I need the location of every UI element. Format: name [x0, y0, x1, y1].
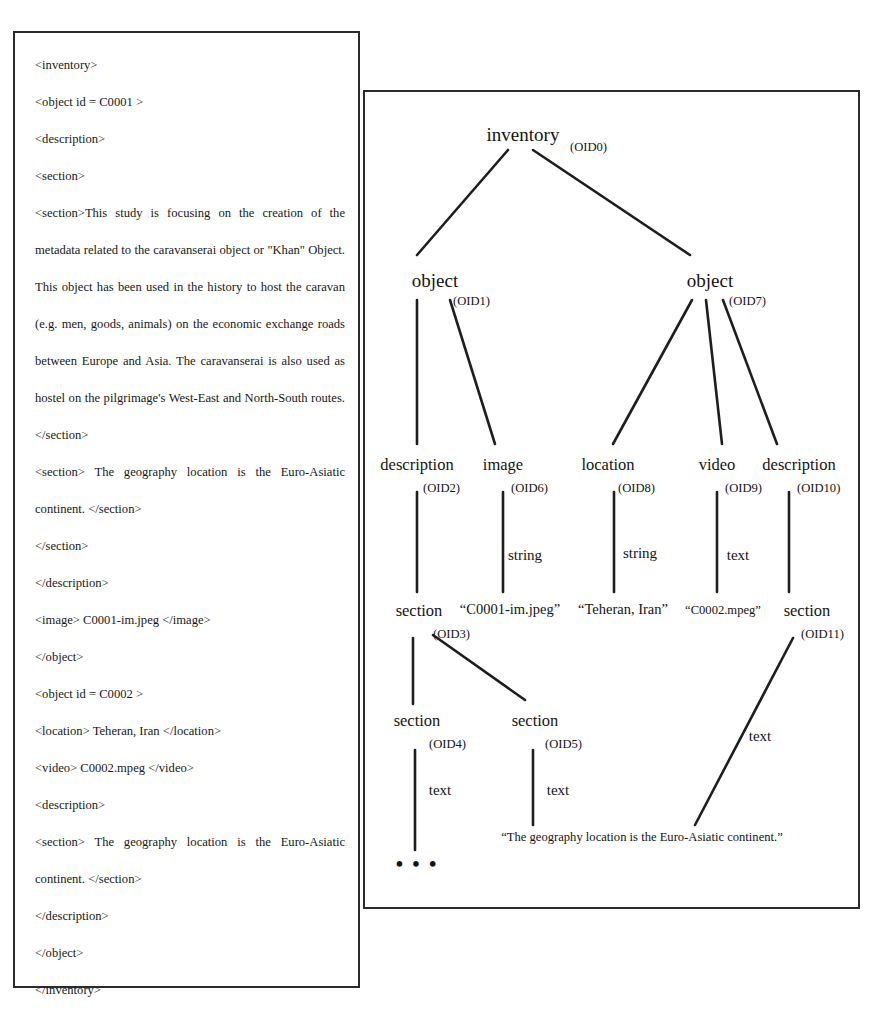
- tree-node-object-2: object: [687, 270, 733, 292]
- tree-ellipsis: • • •: [396, 854, 439, 875]
- xml-document-panel: <inventory><object id = C0001 ><descript…: [13, 31, 360, 988]
- tree-node-description-1: description: [380, 455, 453, 475]
- tree-edge-label-text-section11: text: [749, 728, 772, 745]
- tree-oid-inventory: (OID0): [570, 140, 607, 155]
- xml-line: <section>This study is focusing on the c…: [35, 195, 345, 454]
- tree-node-section-oid4: section: [394, 711, 441, 731]
- tree-edge-label-text-section4: text: [429, 782, 452, 799]
- tree-oid-section-oid11: (OID11): [801, 627, 844, 642]
- edge-object2-location: [613, 300, 692, 444]
- xml-line: <section> The geography location is the …: [35, 824, 345, 898]
- xml-line: </inventory>: [35, 972, 345, 1009]
- xml-line-list: <inventory><object id = C0001 ><descript…: [35, 47, 345, 1009]
- tree-node-section-oid5: section: [512, 711, 559, 731]
- tree-node-image: image: [483, 455, 523, 475]
- xml-line: <inventory>: [35, 47, 345, 84]
- xml-line: <image> C0001-im.jpeg </image>: [35, 602, 345, 639]
- edge-inventory-object2: [533, 150, 690, 255]
- tree-node-object-1: object: [412, 270, 458, 292]
- tree-oid-section-oid3: (OID3): [433, 627, 470, 642]
- xml-line: <video> C0002.mpeg </video>: [35, 750, 345, 787]
- edge-object1-image: [450, 300, 495, 444]
- xml-line: <object id = C0001 >: [35, 84, 345, 121]
- tree-node-description-2: description: [762, 455, 835, 475]
- tree-node-location: location: [581, 455, 634, 475]
- tree-edge-label-string-image: string: [508, 547, 542, 564]
- tree-oid-section-oid4: (OID4): [429, 737, 466, 752]
- edge-section11-text: [695, 638, 793, 825]
- xml-line: <description>: [35, 121, 345, 158]
- tree-oid-section-oid5: (OID5): [545, 737, 582, 752]
- tree-node-section-oid3: section: [396, 601, 443, 621]
- edge-object2-description: [723, 300, 777, 444]
- tree-oid-description-2: (OID10): [797, 481, 840, 496]
- xml-line: <description>: [35, 787, 345, 824]
- tree-node-video: video: [699, 455, 736, 475]
- xml-line: <object id = C0002 >: [35, 676, 345, 713]
- tree-leaf-location-value: “Teheran, Iran”: [578, 601, 668, 618]
- xml-line: </description>: [35, 565, 345, 602]
- xml-line: <section>: [35, 158, 345, 195]
- tree-oid-video: (OID9): [725, 481, 762, 496]
- tree-leaf-image-value: “C0001-im.jpeg”: [460, 601, 560, 618]
- tree-edge-label-text-section5: text: [547, 782, 570, 799]
- tree-edge-label-text-video: text: [727, 547, 750, 564]
- edge-inventory-object1: [417, 150, 508, 255]
- xml-line: </object>: [35, 935, 345, 972]
- xml-line: <location> Teheran, Iran </location>: [35, 713, 345, 750]
- tree-node-inventory: inventory: [487, 124, 560, 146]
- xml-line: <section> The geography location is the …: [35, 454, 345, 528]
- tree-edge-label-string-location: string: [623, 545, 657, 562]
- tree-leaf-geography-value: “The geography location is the Euro-Asia…: [501, 830, 783, 845]
- xml-line: </description>: [35, 898, 345, 935]
- oem-tree-panel: inventory (OID0) object (OID1) object (O…: [363, 90, 860, 909]
- xml-line: </object>: [35, 639, 345, 676]
- edge-section3-section5: [433, 635, 525, 700]
- tree-node-section-oid11: section: [784, 601, 831, 621]
- edge-object2-video: [706, 300, 722, 444]
- tree-oid-location: (OID8): [618, 481, 655, 496]
- tree-oid-object-1: (OID1): [453, 294, 490, 309]
- tree-leaf-video-value: “C0002.mpeg”: [685, 603, 761, 618]
- tree-oid-image: (OID6): [511, 481, 548, 496]
- tree-oid-object-2: (OID7): [729, 294, 766, 309]
- xml-line: </section>: [35, 528, 345, 565]
- tree-oid-description-1: (OID2): [423, 481, 460, 496]
